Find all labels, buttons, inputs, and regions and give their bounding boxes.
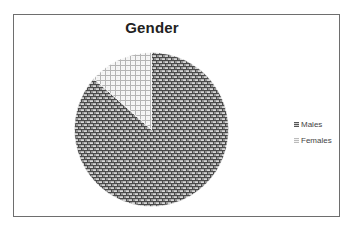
legend: Males Females [294, 116, 332, 148]
females-swatch-icon [294, 138, 299, 143]
pie-slices [74, 53, 228, 207]
legend-label-females: Females [301, 136, 332, 145]
legend-label-males: Males [301, 120, 322, 129]
pie-chart [0, 0, 354, 228]
males-swatch-icon [294, 122, 299, 127]
legend-item-females[interactable]: Females [294, 132, 332, 148]
legend-item-males[interactable]: Males [294, 116, 332, 132]
